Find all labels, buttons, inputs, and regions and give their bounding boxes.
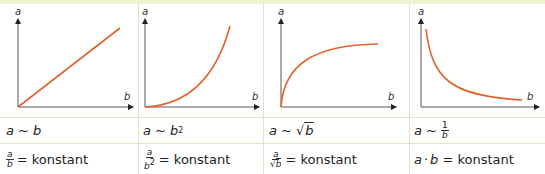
constant-sqrt: a √b = konstant <box>269 144 407 174</box>
quadratic-curve <box>145 26 230 107</box>
graph-sqrt: a b <box>264 4 409 117</box>
relation-inverse: a ~ 1 b <box>414 117 544 143</box>
y-axis-label: a <box>15 6 21 17</box>
svg-text:a: a <box>418 6 424 17</box>
graph-inverse: a b <box>410 4 545 117</box>
fraction: a √b <box>269 150 282 169</box>
fraction: a b2 <box>143 148 156 171</box>
constant-inverse: a · b = konstant <box>414 144 544 174</box>
sqrt-curve <box>281 44 378 107</box>
linear-graph-svg: a b <box>0 4 138 117</box>
quadratic-graph-svg: a b <box>139 4 263 117</box>
constant-linear: a b = konstant <box>6 144 136 174</box>
fraction: 1 b <box>441 121 449 140</box>
fraction: a b <box>6 150 14 169</box>
linear-curve <box>18 28 120 107</box>
sqrt-expression: √b <box>296 122 315 138</box>
svg-text:b: b <box>388 91 394 102</box>
x-axis-label: b <box>124 91 130 102</box>
proportionality-table: a b a b <box>0 4 545 174</box>
graph-quadratic: a b <box>139 4 263 117</box>
svg-text:b: b <box>527 91 533 102</box>
svg-text:b: b <box>252 91 258 102</box>
relation-sqrt: a ~ √b <box>269 117 407 143</box>
relation-quadratic: a ~ b2 <box>143 117 261 143</box>
relation-linear: a ~ b <box>6 117 136 143</box>
svg-text:a: a <box>278 6 284 17</box>
sqrt-graph-svg: a b <box>264 4 409 117</box>
graph-linear: a b <box>0 4 138 117</box>
inverse-graph-svg: a b <box>410 4 545 117</box>
inverse-curve <box>426 29 522 100</box>
constant-quadratic: a b2 = konstant <box>143 144 261 174</box>
svg-text:a: a <box>142 6 148 17</box>
